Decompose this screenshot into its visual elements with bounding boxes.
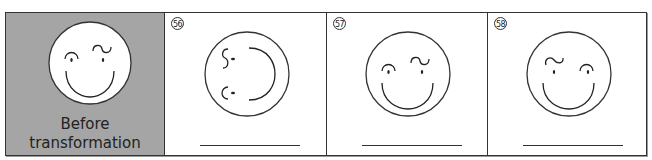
panel-57: 57 [326,13,487,155]
panel-before-transformation: Before transformation [6,13,164,155]
smiley-face-icon [48,19,132,107]
answer-blank-58[interactable] [523,145,623,146]
smiley-face-icon [365,29,451,119]
smiley-face-icon [204,29,290,119]
answer-blank-56[interactable] [200,145,300,146]
before-transformation-caption: Before transformation [6,115,164,153]
problem-number-57: 57 [333,17,346,30]
panel-58: 58 [487,13,646,155]
panel-56: 56 [164,13,326,155]
smiley-face-icon [526,29,612,119]
caption-line-1: Before [6,115,164,134]
problem-number-56: 56 [171,17,184,30]
caption-line-2: transformation [6,134,164,153]
problem-number-58: 58 [494,17,507,30]
answer-blank-57[interactable] [362,145,462,146]
transformation-worksheet-strip: Before transformation 56 57 [5,12,647,156]
